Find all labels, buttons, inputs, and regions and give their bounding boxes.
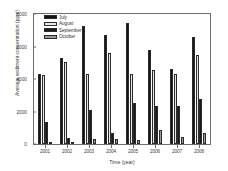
bar-september-2008 bbox=[199, 99, 202, 144]
bar-october-2004 bbox=[115, 139, 118, 144]
legend-swatch-icon bbox=[44, 28, 57, 32]
x-tick-label: 2005 bbox=[128, 149, 138, 154]
bar-july-2007 bbox=[170, 69, 173, 144]
legend-label: July bbox=[59, 15, 67, 20]
bar-august-2006 bbox=[152, 70, 155, 144]
bar-august-2005 bbox=[130, 74, 133, 144]
x-tick-mark bbox=[89, 145, 90, 148]
y-tick-label: 0 bbox=[24, 142, 27, 147]
x-tick-label: 2007 bbox=[172, 149, 182, 154]
y-tick-label: 6000 bbox=[16, 44, 27, 49]
bar-july-2008 bbox=[192, 37, 195, 144]
bar-october-2006 bbox=[159, 130, 162, 144]
y-tick-mark bbox=[33, 111, 36, 112]
bar-october-2007 bbox=[181, 137, 184, 144]
bar-august-2002 bbox=[64, 62, 67, 144]
x-tick-mark bbox=[199, 145, 200, 148]
bar-july-2004 bbox=[104, 35, 107, 144]
bar-july-2001 bbox=[38, 74, 41, 144]
bar-september-2007 bbox=[177, 106, 180, 144]
bar-october-2002 bbox=[71, 142, 74, 144]
x-tick-label: 2004 bbox=[106, 149, 116, 154]
bar-october-2008 bbox=[203, 133, 206, 144]
bar-october-2003 bbox=[93, 139, 96, 144]
y-tick-mark bbox=[33, 144, 36, 145]
legend-swatch-icon bbox=[44, 22, 57, 26]
bar-july-2006 bbox=[148, 50, 151, 144]
y-tick-mark bbox=[33, 14, 36, 15]
legend-item-july[interactable]: July bbox=[44, 14, 81, 20]
x-tick-label: 2002 bbox=[62, 149, 72, 154]
y-tick-mark bbox=[33, 46, 36, 47]
legend-label: August bbox=[59, 21, 73, 26]
chart-figure: Average sediment concentration (ppm) 020… bbox=[0, 0, 228, 171]
x-tick-mark bbox=[67, 145, 68, 148]
bar-september-2004 bbox=[111, 133, 114, 144]
bar-august-2004 bbox=[108, 53, 111, 144]
y-tick-label: 2000 bbox=[16, 109, 27, 114]
legend-item-august[interactable]: August bbox=[44, 21, 81, 27]
x-tick-mark bbox=[111, 145, 112, 148]
bar-july-2005 bbox=[126, 23, 129, 144]
chart-legend: JulyAugustSeptemberOctober bbox=[44, 14, 81, 40]
bar-august-2003 bbox=[86, 74, 89, 144]
x-tick-mark bbox=[177, 145, 178, 148]
y-tick-label: 4000 bbox=[16, 77, 27, 82]
legend-item-september[interactable]: September bbox=[44, 27, 81, 33]
y-tick-label: 8000 bbox=[16, 12, 27, 17]
x-tick-mark bbox=[155, 145, 156, 148]
bar-august-2001 bbox=[42, 75, 45, 144]
x-tick-mark bbox=[45, 145, 46, 148]
x-tick-mark bbox=[133, 145, 134, 148]
bar-july-2002 bbox=[60, 58, 63, 144]
x-tick-label: 2006 bbox=[150, 149, 160, 154]
bar-july-2003 bbox=[82, 26, 85, 144]
x-tick-label: 2001 bbox=[40, 149, 50, 154]
legend-label: September bbox=[59, 28, 81, 33]
bar-august-2007 bbox=[174, 74, 177, 144]
bar-september-2006 bbox=[155, 106, 158, 144]
legend-item-october[interactable]: October bbox=[44, 34, 81, 40]
y-axis: 02000400060008000 bbox=[0, 0, 31, 171]
legend-swatch-icon bbox=[44, 35, 57, 39]
bar-september-2002 bbox=[67, 138, 70, 144]
bar-september-2003 bbox=[89, 110, 92, 144]
legend-label: October bbox=[59, 34, 75, 39]
x-tick-label: 2003 bbox=[84, 149, 94, 154]
bar-september-2001 bbox=[45, 122, 48, 144]
x-axis-title: Time (year) bbox=[33, 159, 211, 165]
legend-swatch-icon bbox=[44, 15, 57, 19]
bar-september-2005 bbox=[133, 103, 136, 144]
y-tick-mark bbox=[33, 79, 36, 80]
bar-october-2001 bbox=[49, 142, 52, 144]
bar-august-2008 bbox=[196, 55, 199, 144]
x-tick-label: 2008 bbox=[194, 149, 204, 154]
bar-october-2005 bbox=[137, 140, 140, 144]
